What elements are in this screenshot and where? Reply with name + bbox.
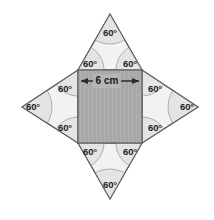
dimension-label: 6 cm (96, 75, 119, 86)
angle-label-right-base-top: 60° (148, 83, 162, 94)
angle-label-top-base-left: 60° (83, 58, 97, 69)
angle-label-left-base-top: 60° (58, 83, 72, 94)
arc-bottom-apex (80, 169, 140, 220)
angle-label-left-apex: 60° (26, 101, 40, 112)
angle-label-top-apex: 60° (103, 27, 117, 38)
angle-label-left-base-bottom: 60° (58, 122, 72, 133)
angle-label-bottom-apex: 60° (103, 179, 117, 190)
star-polygon-diagram: 6 cm 60° 60° 60° 60° 60° 60° 60° 60° 60°… (0, 0, 214, 220)
geometry-figure: 6 cm 60° 60° 60° 60° 60° 60° 60° 60° 60°… (0, 0, 214, 220)
angle-label-top-base-right: 60° (123, 58, 137, 69)
angle-label-right-apex: 60° (180, 101, 194, 112)
angle-label-bottom-base-right: 60° (123, 146, 137, 157)
angle-label-bottom-base-left: 60° (83, 146, 97, 157)
angle-label-right-base-bottom: 60° (148, 122, 162, 133)
